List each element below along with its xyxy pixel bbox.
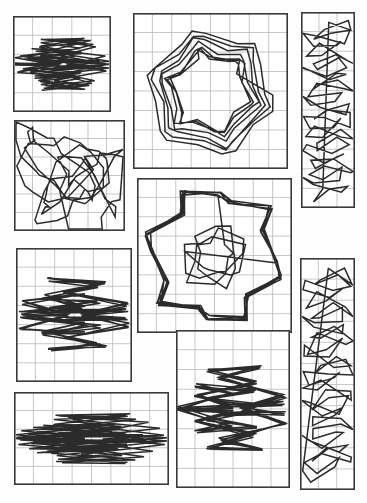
panel-low-left <box>16 248 132 382</box>
panel-mid-right <box>300 258 355 490</box>
panel-low-center <box>176 330 290 488</box>
panel-top-right <box>301 12 355 208</box>
pattern-path <box>147 31 273 154</box>
panel-mid-left <box>14 120 125 231</box>
pattern-path <box>178 366 286 450</box>
panel-top-center <box>133 13 288 169</box>
pattern-path <box>15 39 109 91</box>
pattern-path <box>303 20 353 202</box>
panel-mid-center <box>137 178 292 333</box>
pattern-sheet <box>0 0 367 503</box>
panel-bottom-left <box>14 392 169 485</box>
panel-top-left <box>13 16 111 112</box>
